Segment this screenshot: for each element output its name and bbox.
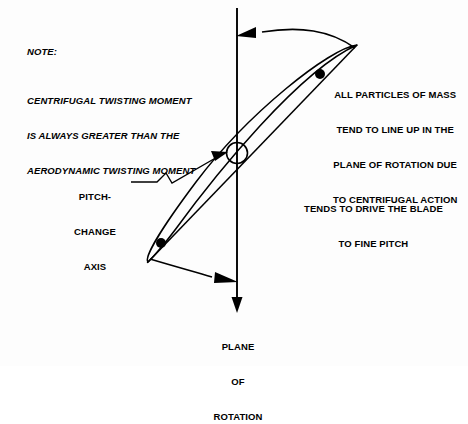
mass-particle-dot-lower xyxy=(156,238,166,248)
lower-arrow-head xyxy=(214,272,238,283)
note-heading: NOTE: xyxy=(27,46,57,58)
note-body-line: IS ALWAYS GREATER THAN THE xyxy=(27,130,195,142)
lower-arrow-curve xyxy=(150,259,212,277)
mass-particle-dot-upper xyxy=(315,69,325,79)
label-line: CHANGE xyxy=(62,226,128,238)
label-line: PLANE xyxy=(196,341,280,353)
rotation-axis-arrowhead xyxy=(232,297,243,313)
upper-arrow-head xyxy=(236,27,256,38)
label-line: PITCH- xyxy=(62,191,128,203)
label-line: AXIS xyxy=(62,261,128,273)
pitch-change-axis-label: PITCH- CHANGE AXIS xyxy=(62,168,128,296)
fine-pitch-annotation: TENDS TO DRIVE THE BLADE TO FINE PITCH xyxy=(304,180,443,273)
annotation-line: TEND TO LINE UP IN THE xyxy=(333,124,457,136)
label-line: ROTATION xyxy=(196,411,280,423)
plane-of-rotation-label: PLANE OF ROTATION xyxy=(196,318,280,424)
annotation-line: ALL PARTICLES OF MASS xyxy=(333,89,457,101)
annotation-line: TENDS TO DRIVE THE BLADE xyxy=(304,203,443,215)
note-body-line: CENTRIFUGAL TWISTING MOMENT xyxy=(27,95,195,107)
annotation-line: TO FINE PITCH xyxy=(304,238,443,250)
upper-rotation-arrow xyxy=(236,27,355,48)
annotation-line: PLANE OF ROTATION DUE xyxy=(333,159,457,171)
lower-rotation-arrow xyxy=(150,259,238,283)
plane-of-rotation-axis xyxy=(232,8,243,313)
label-line: OF xyxy=(196,376,280,388)
upper-arrow-curve xyxy=(262,29,355,48)
